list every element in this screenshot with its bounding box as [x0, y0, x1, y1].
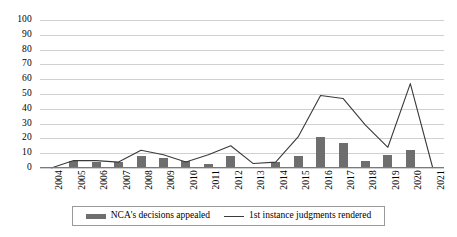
legend-item-bar[interactable]: NCA's decisions appealed — [86, 211, 210, 221]
line-swatch-icon — [224, 216, 244, 217]
plot-area — [40, 20, 444, 168]
y-axis-tick-label: 80 — [22, 45, 32, 55]
line-path — [51, 84, 433, 168]
legend-item-line[interactable]: 1st instance judgments rendered — [224, 211, 371, 221]
x-axis-tick-label: 2008 — [145, 170, 155, 190]
legend-label-bar: NCA's decisions appealed — [111, 211, 210, 221]
x-axis-tick-label: 2013 — [257, 170, 267, 190]
y-axis-tick-label: 70 — [22, 60, 32, 70]
chart-legend: NCA's decisions appealed 1st instance ju… — [72, 206, 385, 226]
line-series — [40, 20, 444, 168]
y-axis-tick-label: 50 — [22, 89, 32, 99]
x-axis-tick-label: 2014 — [280, 170, 290, 190]
x-axis: 2004200520062007200820092010201120122013… — [40, 170, 444, 204]
y-axis-tick-label: 60 — [22, 74, 32, 84]
x-axis-tick-label: 2018 — [369, 170, 379, 190]
x-axis-tick-label: 2006 — [100, 170, 110, 190]
bar-swatch-icon — [86, 214, 106, 219]
x-axis-tick-label: 2004 — [55, 170, 65, 190]
y-axis-tick-label: 0 — [27, 163, 32, 173]
y-axis: 0102030405060708090100 — [0, 20, 36, 168]
y-axis-tick-label: 100 — [17, 15, 32, 25]
y-axis-tick-label: 20 — [22, 134, 32, 144]
x-axis-tick-label: 2016 — [325, 170, 335, 190]
x-axis-tick-label: 2009 — [167, 170, 177, 190]
y-axis-tick-label: 10 — [22, 148, 32, 158]
y-axis-tick-label: 40 — [22, 104, 32, 114]
x-axis-tick-label: 2011 — [212, 170, 222, 189]
x-axis-tick-label: 2019 — [392, 170, 402, 190]
legend-label-line: 1st instance judgments rendered — [249, 211, 371, 221]
chart-container: 0102030405060708090100 20042005200620072… — [0, 0, 457, 237]
x-axis-tick-label: 2017 — [347, 170, 357, 190]
x-axis-tick-label: 2010 — [190, 170, 200, 190]
x-axis-line — [40, 167, 444, 168]
y-axis-tick-label: 90 — [22, 30, 32, 40]
x-axis-tick-label: 2021 — [437, 170, 447, 190]
x-axis-tick-label: 2020 — [414, 170, 424, 190]
x-axis-tick-label: 2007 — [123, 170, 133, 190]
x-axis-tick-label: 2015 — [302, 170, 312, 190]
y-axis-tick-label: 30 — [22, 119, 32, 129]
x-axis-tick-label: 2012 — [235, 170, 245, 190]
x-axis-tick-label: 2005 — [78, 170, 88, 190]
